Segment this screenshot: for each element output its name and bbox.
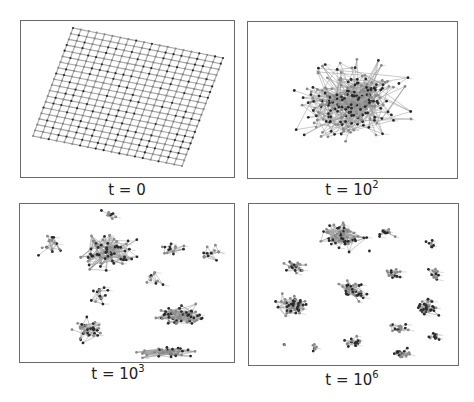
caption-base: 10: [353, 181, 372, 199]
caption-exponent: 3: [138, 363, 144, 374]
caption-t-1e3: t = 103: [58, 364, 178, 383]
lattice-network-graph: [21, 21, 236, 179]
caption-prefix: t =: [325, 181, 353, 199]
caption-t-1e2: t = 102: [292, 180, 412, 199]
panel-t0: [20, 20, 235, 178]
caption-exponent: 6: [372, 369, 378, 380]
caption-prefix: t =: [108, 181, 136, 199]
caption-base: 0: [136, 181, 146, 199]
caption-prefix: t =: [91, 365, 119, 383]
caption-base: 10: [119, 365, 138, 383]
fragmenting-network-graph: [20, 204, 236, 364]
panel-t-1e2: [247, 21, 458, 179]
caption-t-1e6: t = 106: [292, 370, 412, 389]
panel-t-1e3: [19, 203, 235, 363]
caption-base: 10: [353, 371, 372, 389]
random-network-graph: [248, 22, 459, 180]
clustered-network-graph: [249, 204, 460, 367]
caption-prefix: t =: [325, 371, 353, 389]
caption-t0: t = 0: [67, 180, 187, 199]
caption-exponent: 2: [372, 179, 378, 190]
panel-t-1e6: [248, 203, 459, 366]
